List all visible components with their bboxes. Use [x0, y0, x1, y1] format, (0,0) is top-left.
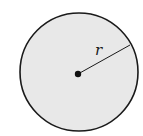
circle-diagram: r [0, 0, 143, 136]
radius-label: r [95, 41, 103, 59]
center-point [75, 71, 81, 77]
diagram-svg: r [0, 0, 143, 136]
